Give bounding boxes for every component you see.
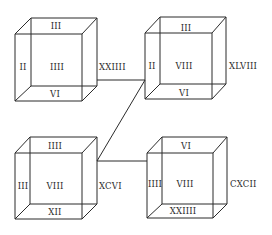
cube-left-label: II xyxy=(19,62,26,72)
cube-edge xyxy=(213,137,227,153)
cube-top-label: III xyxy=(51,21,62,31)
cube-right-label: XLVIII xyxy=(229,61,257,71)
cube-bottom-label: XXIIII xyxy=(170,206,197,216)
cube-edge xyxy=(15,137,30,153)
cube-top-label: IIII xyxy=(48,141,62,151)
cube-edge xyxy=(147,204,162,218)
cube-top-label: VI xyxy=(180,141,191,151)
connectors xyxy=(97,80,147,161)
cube-edge xyxy=(82,204,97,219)
cube-back-face xyxy=(160,17,226,84)
cube-center-label: IIII xyxy=(50,62,64,72)
cube-back-face xyxy=(162,137,227,204)
cube-left-label: III xyxy=(18,181,29,191)
cube-edge xyxy=(15,18,31,34)
cube-center-label: VIII xyxy=(174,61,192,71)
cube-edge xyxy=(145,17,160,33)
cube-right-label: CXCII xyxy=(230,179,257,189)
cube-left-label: II xyxy=(148,61,155,71)
cube-bottom-label: VI xyxy=(178,88,189,98)
cube-edge xyxy=(213,204,227,218)
cube-edge xyxy=(212,17,226,33)
cube-top-label: III xyxy=(181,23,192,33)
cube-diagram: III II IIII VI XXIIII III II VIII VI XLV… xyxy=(0,0,272,235)
cube-top-left: III II IIII VI XXIIII xyxy=(15,18,126,101)
cube-center-label: VIII xyxy=(45,181,63,191)
cube-edge xyxy=(82,18,97,34)
cube-bottom-label: VI xyxy=(49,89,60,99)
cube-center-label: VIII xyxy=(175,179,193,189)
cube-edge xyxy=(15,204,30,219)
cube-bottom-left: IIII III VIII XII XCVI xyxy=(15,137,122,219)
cube-edge xyxy=(212,84,226,99)
cube-top-right: III II VIII VI XLVIII xyxy=(145,17,257,99)
cube-right-label: XCVI xyxy=(99,181,122,191)
connector-diagonal xyxy=(97,80,145,161)
cube-edge xyxy=(82,86,97,101)
cube-right-label: XXIIII xyxy=(99,62,126,72)
cube-edge xyxy=(147,137,162,153)
cube-edge xyxy=(82,137,97,153)
cube-bottom-label: XII xyxy=(48,207,61,217)
cube-edge xyxy=(145,84,160,99)
cube-left-label: IIII xyxy=(148,179,162,189)
cube-edge xyxy=(15,86,31,101)
cube-bottom-right: VI IIII VIII XXIIII CXCII xyxy=(147,137,257,218)
